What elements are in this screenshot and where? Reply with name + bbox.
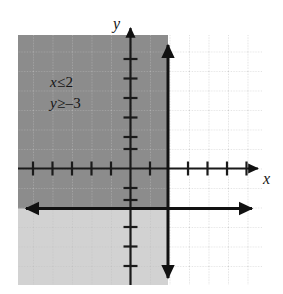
grid-overlay (18, 35, 262, 285)
inequality-y-relation: ≥ (57, 95, 66, 111)
inequality-x-value: 2 (66, 74, 74, 90)
x-axis-label: x (263, 170, 270, 188)
coordinate-plane (0, 0, 283, 294)
inequality-x-relation: ≤ (57, 74, 66, 90)
inequality-label-y: y≥–3 (50, 95, 81, 112)
inequality-y-value: –3 (66, 95, 82, 111)
inequality-y-variable: y (50, 95, 57, 111)
graph-figure: x≤2 y≥–3 y x (0, 0, 283, 294)
inequality-x-variable: x (50, 74, 57, 90)
inequality-label-x: x≤2 (50, 74, 73, 91)
y-axis-label: y (113, 15, 120, 33)
